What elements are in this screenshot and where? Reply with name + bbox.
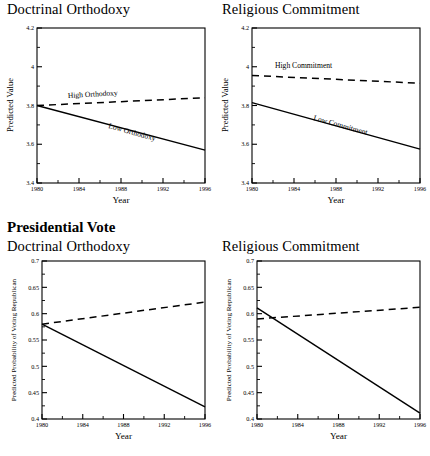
chart-bottom-right: 0.4 0.45 0.5 0.55 0.6 0.65 0.7 1980 1984 [215, 238, 430, 456]
x-tick-label: 1988 [117, 421, 129, 428]
x-axis-title: Year [115, 431, 132, 441]
y-tick-label: 0.55 [28, 336, 39, 343]
panel-top-right: Religious Commitment 3.4 3.6 3.8 4 4.2 [215, 0, 430, 210]
y-axis-title: Predicted Probability of Voting Republic… [225, 278, 233, 401]
y-tick-label: 0.55 [243, 336, 254, 343]
series-label-high: High Orthodoxy [68, 88, 119, 100]
y-tick-label: 0.65 [28, 284, 39, 291]
x-tick-label: 1980 [246, 185, 258, 192]
y-tick-label: 0.6 [31, 310, 39, 317]
plot-frame [252, 28, 420, 183]
x-tick-label: 1988 [330, 185, 342, 192]
y-axis-bottom-right: 0.4 0.45 0.5 0.55 0.6 0.65 0.7 [243, 257, 262, 422]
x-tick-label: 1992 [373, 421, 385, 428]
y-tick-label: 0.5 [246, 363, 254, 370]
y-tick-label: 4.2 [241, 24, 249, 31]
x-tick-label: 1984 [292, 421, 304, 428]
y-tick-label: 3.6 [241, 140, 249, 147]
chart-top-left: 3.4 3.6 3.8 4 4.2 1980 1984 1988 [0, 0, 215, 210]
x-tick-label: 1984 [73, 185, 85, 192]
series-label-low: Low Commitment [312, 113, 369, 137]
x-tick-label: 1996 [199, 421, 211, 428]
plot-frame [42, 261, 205, 419]
x-tick-label: 1984 [288, 185, 300, 192]
x-tick-label: 1988 [115, 185, 127, 192]
y-tick-label: 0.7 [246, 257, 254, 264]
series-line-high [257, 307, 420, 319]
x-tick-label: 1980 [251, 421, 263, 428]
y-tick-label: 3.6 [26, 140, 34, 147]
x-tick-label: 1992 [157, 185, 169, 192]
x-tick-label: 1984 [77, 421, 89, 428]
y-tick-label: 3.8 [241, 102, 249, 109]
series-line-low [42, 324, 205, 407]
panel-bottom-left: Doctrinal Orthodoxy 0.4 0.45 0.5 [0, 238, 215, 456]
x-tick-label: 1996 [199, 185, 211, 192]
y-tick-label: 0.45 [28, 389, 39, 396]
series-label-high: High Commitment [275, 61, 333, 70]
series-line-low [257, 308, 420, 413]
plot-frame [37, 28, 205, 183]
y-tick-label: 3.8 [26, 102, 34, 109]
y-tick-label: 0.65 [243, 284, 254, 291]
plot-frame [257, 261, 420, 419]
y-tick-label: 0.45 [243, 389, 254, 396]
series-line-high [37, 98, 205, 106]
panel-title-bottom-right: Religious Commitment [222, 238, 360, 255]
y-axis-bottom-left: 0.4 0.45 0.5 0.55 0.6 0.65 0.7 [28, 257, 47, 422]
y-tick-label: 4 [31, 63, 34, 70]
x-tick-label: 1992 [158, 421, 170, 428]
panel-bottom-right: Religious Commitment 0.4 0.45 0.5 [215, 238, 430, 456]
y-tick-label: 4.2 [26, 24, 34, 31]
y-tick-label: 0.6 [246, 310, 254, 317]
y-axis-top-right: 3.4 3.6 3.8 4 4.2 [241, 24, 257, 186]
y-axis-title: Predicted Value [220, 78, 230, 132]
y-tick-label: 4 [246, 63, 249, 70]
x-tick-label: 1996 [414, 421, 426, 428]
series-line-high [252, 75, 420, 83]
x-tick-label: 1980 [36, 421, 48, 428]
chart-top-right: 3.4 3.6 3.8 4 4.2 1980 1984 1988 1992 [215, 0, 430, 210]
y-tick-label: 0.7 [31, 257, 39, 264]
y-axis-title: Predicted Probability of Voting Republic… [10, 278, 18, 401]
x-tick-label: 1996 [414, 185, 426, 192]
x-tick-label: 1992 [372, 185, 384, 192]
section-heading-presidential-vote: Presidential Vote [7, 219, 115, 236]
x-tick-label: 1980 [31, 185, 43, 192]
panel-title-top-left: Doctrinal Orthodoxy [7, 1, 130, 18]
x-axis-top-right: 1980 1984 1988 1992 1996 [246, 178, 426, 192]
panel-title-top-right: Religious Commitment [222, 1, 360, 18]
x-axis-bottom-left: 1980 1984 1988 1992 1996 [36, 414, 211, 428]
x-axis-bottom-right: 1980 1984 1988 1992 1996 [251, 414, 426, 428]
panel-top-left: Doctrinal Orthodoxy 3.4 3.6 3.8 4 4.2 [0, 0, 215, 210]
x-axis-title: Year [328, 195, 345, 205]
figure-root: Doctrinal Orthodoxy 3.4 3.6 3.8 4 4.2 [0, 0, 430, 456]
x-axis-top-left: 1980 1984 1988 1992 1996 [31, 178, 211, 192]
panel-title-bottom-left: Doctrinal Orthodoxy [7, 238, 130, 255]
series-line-high [42, 302, 205, 324]
chart-bottom-left: 0.4 0.45 0.5 0.55 0.6 0.65 0.7 1980 1984 [0, 238, 215, 456]
y-axis-title: Predicted Value [5, 78, 15, 132]
x-axis-title: Year [330, 431, 347, 441]
x-axis-title: Year [113, 195, 130, 205]
series-label-low: Low Orthodoxy [107, 121, 157, 143]
y-tick-label: 0.5 [31, 363, 39, 370]
x-tick-label: 1988 [332, 421, 344, 428]
